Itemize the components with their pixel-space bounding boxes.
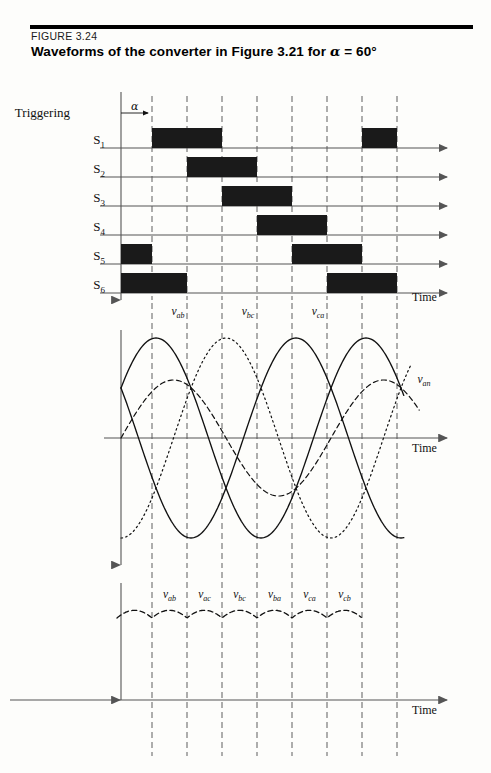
gate-pulse [292, 244, 362, 264]
triggering-label: Triggering [15, 105, 71, 120]
switch-label: S5 [93, 248, 105, 266]
switch-label: S3 [93, 190, 105, 208]
panel-output-ripple: vabvacvbcvbavcavcb [117, 583, 361, 700]
gate-pulse [187, 157, 257, 177]
curve-label: van [417, 373, 430, 388]
gate-row: S5 [93, 244, 447, 266]
gate-pulse [152, 128, 222, 148]
gate-row: S2 [93, 157, 447, 179]
time-axis-label-gating: Time [412, 290, 437, 304]
time-axis-label-line: Time [412, 441, 437, 455]
gate-pulse [121, 244, 152, 264]
gate-pulse [121, 273, 187, 293]
curve-label: vab [171, 305, 184, 320]
switch-label: S6 [93, 277, 105, 295]
ripple-segment-label: vcb [338, 588, 351, 603]
ripple-segment-label: vac [198, 588, 211, 603]
ripple-segment-label: vbc [233, 588, 246, 603]
time-axis-label-bottom: Time [412, 703, 437, 717]
ripple-segment-label: vab [163, 588, 176, 603]
gate-row: S4 [93, 215, 447, 237]
panel-line-voltages: Time vabvbcvcavan [104, 305, 447, 565]
ripple-waveform [117, 610, 361, 618]
ripple-segment-label: vba [268, 588, 281, 603]
ripple-segment-label: vca [303, 588, 316, 603]
panel-gating-pulses: Triggering α S1S2S3S4S5S6 Time [15, 92, 447, 304]
switch-label: S4 [93, 219, 105, 237]
alpha-label: α [131, 100, 139, 113]
curve-label: vbc [242, 305, 255, 320]
switch-label: S2 [93, 161, 105, 179]
gate-pulse [362, 128, 397, 148]
gate-pulse [222, 186, 292, 206]
gate-pulse [257, 215, 327, 235]
panel-bottom-axis: Time [10, 700, 447, 717]
gate-row: S1 [93, 128, 447, 150]
gate-pulse [327, 273, 397, 293]
switch-label: S1 [93, 132, 105, 150]
gate-row: S6 [93, 273, 447, 295]
gate-row-group: S1S2S3S4S5S6 [93, 128, 447, 295]
line-voltage-labels: vabvbcvcavan [171, 305, 430, 388]
gate-row: S3 [93, 186, 447, 208]
waveform-plot: Triggering α S1S2S3S4S5S6 Time Time vabv… [0, 0, 491, 773]
figure-container: FIGURE 3.24 Waveforms of the converter i… [0, 0, 491, 773]
curve-label: vca [312, 305, 325, 320]
